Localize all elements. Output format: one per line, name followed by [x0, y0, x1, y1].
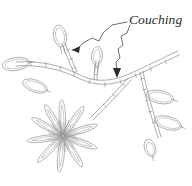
- diagram-canvas: Couching: [0, 0, 192, 186]
- couching-label: Couching: [129, 12, 182, 27]
- couching-diagram: Couching: [0, 0, 192, 186]
